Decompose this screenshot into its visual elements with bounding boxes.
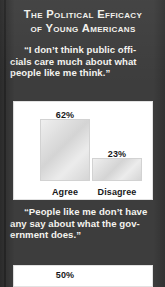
- bar-chart-2-plot-area: 50%: [14, 266, 152, 286]
- bar-2-agree-value: 50%: [40, 270, 90, 280]
- bar-chart-1: 62% Agree 23% Disagree: [13, 101, 153, 200]
- quote-2-line-1: “People like me don’t have: [10, 206, 157, 218]
- figure-title-line-2: of Young Americans: [9, 22, 157, 36]
- bar-chart-2: 50%: [13, 265, 153, 287]
- quote-1-line-3: people like me think.”: [10, 67, 157, 79]
- quote-2-line-2: any say about what the gov-: [10, 218, 157, 230]
- bar-disagree-value: 23%: [92, 149, 142, 159]
- quote-2-line-3: ernment does.”: [10, 229, 157, 241]
- quote-block-1: “I don’t think public offi- cials care m…: [10, 44, 157, 79]
- figure-title: The Political Efficacy of Young American…: [9, 8, 157, 35]
- bar-disagree: [92, 158, 142, 181]
- quote-1-line-2: cials care much about what: [10, 56, 157, 68]
- figure-title-line-1: The Political Efficacy: [9, 8, 157, 22]
- bar-agree-value: 62%: [40, 110, 90, 120]
- bar-agree-category-label: Agree: [35, 187, 95, 197]
- figure-panel: The Political Efficacy of Young American…: [0, 0, 165, 287]
- quote-1-line-1: “I don’t think public offi-: [10, 44, 157, 56]
- quote-block-2: “People like me don’t have any say about…: [10, 206, 157, 241]
- bar-disagree-category-label: Disagree: [87, 187, 147, 197]
- bar-chart-1-plot-area: 62% Agree 23% Disagree: [14, 102, 152, 199]
- bar-agree: [40, 119, 90, 181]
- page-gutter-line: [4, 0, 6, 287]
